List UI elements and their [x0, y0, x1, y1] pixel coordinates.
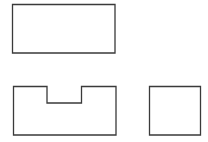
side-view-square: [150, 87, 201, 136]
orthographic-diagram: [0, 0, 208, 142]
top-view-rectangle: [13, 5, 116, 54]
front-view-notched-shape: [14, 87, 117, 136]
